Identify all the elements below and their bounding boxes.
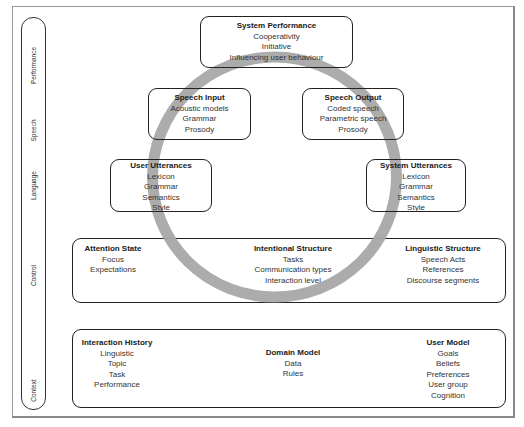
- user-model-group: User Model Goals Beliefs Preferences Use…: [393, 338, 503, 401]
- interaction-history-title: Interaction History: [77, 338, 157, 349]
- item: Cognition: [393, 391, 503, 402]
- item: Lexicon: [111, 172, 211, 183]
- speech-input-box: Speech Input Acoustic models Grammar Pro…: [148, 88, 251, 140]
- item: Speech Acts: [383, 255, 503, 266]
- speech-input-title: Speech Input: [149, 93, 250, 104]
- intentional-structure-title: Intentional Structure: [223, 244, 363, 255]
- item: Focus: [73, 255, 153, 266]
- interaction-history-group: Interaction History Linguistic Topic Tas…: [77, 338, 157, 391]
- item: Interaction level: [223, 276, 363, 287]
- item: Acoustic models: [149, 104, 250, 115]
- item: Influencing user behaviour: [201, 53, 352, 64]
- item: Discourse segments: [383, 276, 503, 287]
- system-performance-box: System Performance Cooperativity Initiat…: [200, 16, 353, 68]
- speech-output-box: Speech Output Coded speech Parametric sp…: [302, 88, 404, 140]
- item: Preferences: [393, 370, 503, 381]
- domain-model-group: Domain Model Data Rules: [233, 348, 353, 380]
- user-utterances-box: User Utterances Lexicon Grammar Semantic…: [110, 159, 212, 212]
- item: Semantics: [367, 193, 465, 204]
- item: Topic: [77, 359, 157, 370]
- layer-label-control: Control: [21, 255, 46, 295]
- attention-state-title: Attention State: [73, 244, 153, 255]
- linguistic-structure-title: Linguistic Structure: [383, 244, 503, 255]
- item: User group: [393, 380, 503, 391]
- layer-label-language: Language: [21, 165, 46, 205]
- linguistic-structure-group: Linguistic Structure Speech Acts Referen…: [383, 244, 503, 286]
- item: Grammar: [149, 114, 250, 125]
- item: Prosody: [303, 125, 403, 136]
- layer-label-performance: Performance: [21, 40, 46, 90]
- user-utterances-title: User Utterances: [111, 161, 211, 172]
- system-utterances-title: System Utterances: [367, 161, 465, 172]
- item: Coded speech: [303, 104, 403, 115]
- item: Lexicon: [367, 172, 465, 183]
- control-layer-box: Attention State Focus Expectations Inten…: [72, 238, 506, 303]
- item: Semantics: [111, 193, 211, 204]
- system-performance-title: System Performance: [201, 21, 352, 32]
- item: Data: [233, 359, 353, 370]
- item: Grammar: [111, 182, 211, 193]
- context-layer-box: Interaction History Linguistic Topic Tas…: [72, 329, 506, 408]
- item: Goals: [393, 349, 503, 360]
- attention-state-group: Attention State Focus Expectations: [73, 244, 153, 276]
- layer-label-context: Context: [21, 372, 46, 408]
- item: Grammar: [367, 182, 465, 193]
- item: Initiative: [201, 42, 352, 53]
- item: Style: [367, 203, 465, 214]
- system-utterances-box: System Utterances Lexicon Grammar Semant…: [366, 159, 466, 212]
- speech-output-title: Speech Output: [303, 93, 403, 104]
- user-model-title: User Model: [393, 338, 503, 349]
- item: Linguistic: [77, 349, 157, 360]
- item: Performance: [77, 380, 157, 391]
- item: References: [383, 265, 503, 276]
- item: Rules: [233, 369, 353, 380]
- item: Style: [111, 203, 211, 214]
- item: Prosody: [149, 125, 250, 136]
- item: Communication types: [223, 265, 363, 276]
- item: Cooperativity: [201, 32, 352, 43]
- item: Expectations: [73, 265, 153, 276]
- item: Tasks: [223, 255, 363, 266]
- intentional-structure-group: Intentional Structure Tasks Communicatio…: [223, 244, 363, 286]
- item: Parametric speech: [303, 114, 403, 125]
- layer-label-speech: Speech: [21, 110, 46, 150]
- domain-model-title: Domain Model: [233, 348, 353, 359]
- item: Beliefs: [393, 359, 503, 370]
- item: Task: [77, 370, 157, 381]
